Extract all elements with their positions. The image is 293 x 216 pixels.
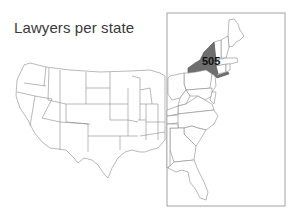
state-value-label: 505 <box>202 55 220 67</box>
us-states-main <box>16 63 165 178</box>
us-map: 505 <box>0 0 293 216</box>
